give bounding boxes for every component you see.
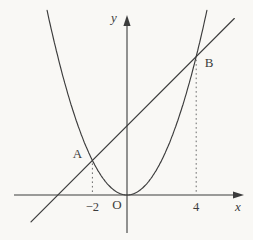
function-graph-figure: y x O A B −2 4 bbox=[0, 0, 253, 240]
point-b-label: B bbox=[205, 55, 214, 70]
y-axis-label: y bbox=[109, 10, 117, 25]
y-axis-arrow-icon bbox=[123, 15, 130, 26]
tick-label-1: 4 bbox=[193, 200, 200, 214]
graph-canvas: y x O A B −2 4 bbox=[0, 0, 253, 240]
secant-line bbox=[31, 19, 234, 222]
origin-label: O bbox=[112, 197, 121, 212]
x-axis-label: x bbox=[234, 199, 241, 214]
x-axis-arrow-icon bbox=[233, 191, 244, 198]
point-a-label: A bbox=[73, 146, 83, 161]
tick-label-0: −2 bbox=[86, 200, 99, 214]
